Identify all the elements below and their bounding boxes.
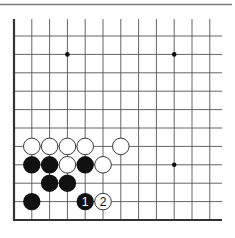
move-number: 2 [100, 195, 107, 209]
black-stone [77, 156, 94, 173]
black-stone-icon [59, 175, 76, 192]
black-stone-icon [41, 175, 58, 192]
white-stone [77, 138, 94, 155]
stone-move-2: 2 [95, 193, 112, 210]
white-stone-icon [77, 138, 94, 155]
white-stone-icon [24, 138, 41, 155]
white-stone-icon [95, 157, 112, 174]
white-stone-icon [113, 138, 130, 155]
black-stone-icon [77, 156, 94, 173]
black-stone [59, 175, 76, 192]
black-stone [23, 193, 40, 210]
black-stone [41, 175, 58, 192]
white-stone-icon [59, 157, 76, 174]
stone-move-1: 1 [77, 193, 94, 210]
white-stone-icon [41, 138, 58, 155]
black-stone-icon [23, 193, 40, 210]
white-stone-icon [59, 138, 76, 155]
star-point-icon [172, 52, 177, 57]
white-stone [95, 157, 112, 174]
star-point-icon [172, 163, 177, 168]
black-stone [23, 156, 40, 173]
stones-layer: 12 [23, 138, 129, 210]
go-board: 12 [0, 0, 235, 238]
black-stone-icon [41, 156, 58, 173]
white-stone [41, 138, 58, 155]
black-stone [41, 156, 58, 173]
white-stone [24, 138, 41, 155]
white-stone [59, 138, 76, 155]
move-number: 1 [82, 195, 89, 209]
white-stone [113, 138, 130, 155]
board-grid [13, 19, 222, 221]
white-stone [59, 157, 76, 174]
star-point-icon [65, 52, 70, 57]
black-stone-icon [23, 156, 40, 173]
